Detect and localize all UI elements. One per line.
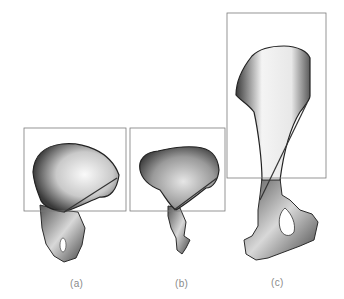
bone-b-ilium xyxy=(140,147,219,210)
panel-a xyxy=(24,128,126,262)
panel-b-label: (b) xyxy=(175,278,188,289)
bone-c-ilium xyxy=(236,46,310,180)
pelvis-comparison-figure: (a) (b) (c) xyxy=(0,0,344,299)
panel-b xyxy=(130,128,225,254)
panel-a-label: (a) xyxy=(70,278,83,289)
figure-drawing xyxy=(0,0,344,299)
bone-a-foramen xyxy=(60,238,66,252)
bone-a-ilium xyxy=(33,144,119,212)
bone-b-lower xyxy=(168,206,190,254)
panel-c-label: (c) xyxy=(271,277,284,288)
panel-c xyxy=(227,13,326,260)
bone-a-lower xyxy=(40,205,85,262)
